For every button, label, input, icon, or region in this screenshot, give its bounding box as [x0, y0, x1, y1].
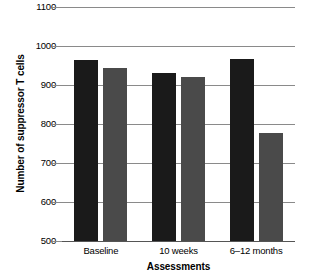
y-axis-tick-mark: [52, 163, 62, 164]
bar: [74, 60, 98, 241]
bar: [152, 73, 176, 241]
bar: [259, 133, 283, 241]
y-axis-tick-label: 1100: [4, 2, 56, 12]
x-axis-tick-label: 10 weeks: [140, 245, 218, 256]
bar: [103, 68, 127, 241]
x-axis-title: Assessments: [62, 261, 295, 272]
y-axis-tick-mark: [52, 7, 62, 8]
x-axis-tick-label: 6–12 months: [217, 245, 295, 256]
x-axis-tick-label: Baseline: [62, 245, 140, 256]
y-axis-tick-label: 900: [4, 80, 56, 90]
bars-layer: [62, 7, 295, 241]
y-axis-tick-mark: [52, 124, 62, 125]
y-axis-tick-mark: [52, 241, 62, 242]
y-axis-tick-mark: [52, 85, 62, 86]
y-axis-tick-mark: [52, 202, 62, 203]
x-axis-line: [62, 241, 295, 242]
bar: [230, 59, 254, 241]
y-axis-tick-mark: [52, 46, 62, 47]
y-axis-tick-label: 500: [4, 236, 56, 246]
y-axis-tick-label: 800: [4, 119, 56, 129]
y-axis-tick-label: 700: [4, 158, 56, 168]
bar-chart: Number of suppressor T cells 11001000900…: [0, 0, 309, 280]
y-axis-tick-labels: 11001000900800700600500: [0, 0, 56, 280]
bar: [181, 77, 205, 241]
y-axis-tick-label: 600: [4, 197, 56, 207]
y-axis-tick-label: 1000: [4, 41, 56, 51]
